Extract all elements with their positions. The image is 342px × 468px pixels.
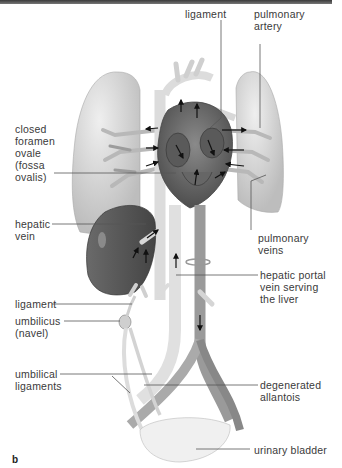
label-ligament-top: ligament [185,8,226,20]
panel-label: b [12,454,18,465]
label-urinary-bladder: urinary bladder [254,444,327,456]
label-umbilical-ligaments: umbilical ligaments [15,368,62,392]
label-ligament-bottom: ligament [15,298,56,310]
label-umbilicus: umbilicus (navel) [15,315,61,339]
label-closed-foramen-ovale: closed foramen ovale (fossa ovalis) [15,123,55,183]
left-atrium [200,128,224,158]
urinary-bladder [140,418,230,462]
label-hepatic-portal-vein: hepatic portal vein serving the liver [260,269,326,305]
label-degenerated-allantois: degenerated allantois [260,379,321,403]
label-pulmonary-artery: pulmonary artery [254,8,305,32]
label-hepatic-vein: hepatic vein [15,218,50,242]
umbilicus [119,315,131,329]
right-atrium [166,133,190,167]
label-pulmonary-veins: pulmonary veins [258,232,309,256]
